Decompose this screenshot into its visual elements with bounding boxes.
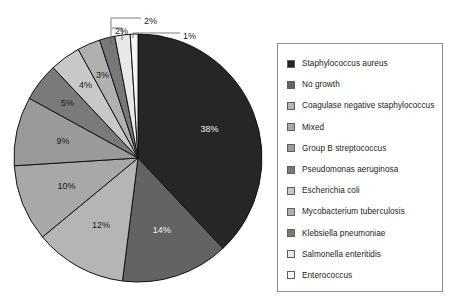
legend-color-swatch [287, 166, 295, 174]
legend-item[interactable]: Group B streptococcus [278, 138, 442, 159]
legend-color-swatch [287, 144, 295, 152]
slice-percent-label: 5% [61, 98, 74, 108]
pie-chart-area: 38%14%12%10%9%5%4%3% 2%2%1% [0, 0, 272, 307]
chart-legend: Staphylococcus aureusNo growthCoagulase … [277, 43, 443, 292]
legend-item[interactable]: Klebsiella pneumoniae [278, 223, 442, 244]
legend-color-swatch [287, 81, 295, 89]
callout-percent-label: 2% [115, 26, 128, 36]
callout-percent-label: 2% [144, 16, 157, 26]
slice-percent-label: 12% [92, 220, 110, 230]
pie-slices-group [14, 34, 262, 282]
legend-color-swatch [287, 60, 295, 68]
legend-color-swatch [287, 250, 295, 258]
legend-item-label: Staphylococcus aureus [302, 59, 388, 68]
legend-item-label: Enterococcus [302, 271, 352, 280]
slice-percent-label: 9% [56, 136, 69, 146]
slice-percent-label: 38% [200, 124, 218, 134]
legend-item-label: Coagulase negative staphylococcus [302, 101, 434, 110]
chart-root: 38%14%12%10%9%5%4%3% 2%2%1% Staphylococc… [0, 0, 454, 307]
legend-item-label: Mycobacterium tuberculosis [302, 207, 405, 216]
legend-item[interactable]: Escherichia coli [278, 180, 442, 201]
legend-item[interactable]: Mycobacterium tuberculosis [278, 201, 442, 222]
legend-color-swatch [287, 271, 295, 279]
legend-item-label: Pseudomonas aeruginosa [302, 165, 398, 174]
legend-item[interactable]: Coagulase negative staphylococcus [278, 95, 442, 116]
legend-item-label: Group B streptococcus [302, 144, 386, 153]
callout-percent-label: 1% [183, 31, 196, 41]
slice-percent-label: 14% [153, 225, 171, 235]
legend-item[interactable]: No growth [278, 74, 442, 95]
legend-color-swatch [287, 229, 295, 237]
legend-item[interactable]: Enterococcus [278, 265, 442, 286]
legend-item[interactable]: Staphylococcus aureus [278, 53, 442, 74]
slice-percent-label: 3% [96, 70, 109, 80]
legend-item[interactable]: Salmonella enteritidis [278, 244, 442, 265]
slice-percent-label: 4% [79, 80, 92, 90]
pie-chart-svg: 38%14%12%10%9%5%4%3% 2%2%1% [0, 0, 272, 307]
legend-color-swatch [287, 102, 295, 110]
legend-item[interactable]: Mixed [278, 117, 442, 138]
legend-item-label: Mixed [302, 123, 324, 132]
legend-item-label: Klebsiella pneumoniae [302, 229, 385, 238]
legend-color-swatch [287, 187, 295, 195]
legend-item-label: Escherichia coli [302, 186, 360, 195]
legend-color-swatch [287, 123, 295, 131]
legend-item-label: Salmonella enteritidis [302, 250, 381, 259]
legend-item-label: No growth [302, 80, 340, 89]
slice-percent-label: 10% [57, 181, 75, 191]
legend-color-swatch [287, 208, 295, 216]
legend-item[interactable]: Pseudomonas aeruginosa [278, 159, 442, 180]
